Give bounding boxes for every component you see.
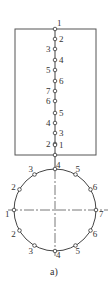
chain-label: 3 <box>59 129 64 138</box>
node-marker <box>53 68 57 72</box>
circle-label: 1 <box>5 210 10 219</box>
chain-label: 1 <box>59 141 64 150</box>
circle-label: 4 <box>56 251 61 260</box>
circle-label: 3 <box>29 165 34 174</box>
node-marker <box>12 208 16 212</box>
node-marker <box>53 58 57 62</box>
chain-label: 2 <box>46 140 51 149</box>
node-marker <box>18 229 22 233</box>
chain-label: 5 <box>59 109 64 118</box>
chain-label: 5 <box>46 66 51 75</box>
node-marker <box>53 153 57 157</box>
circle-label: 3 <box>29 247 34 256</box>
chain-label: 4 <box>46 119 51 128</box>
circle-label: 5 <box>76 165 81 174</box>
chain-label: 3 <box>46 45 51 54</box>
node-marker <box>94 208 98 212</box>
node-marker <box>53 47 57 51</box>
circle-label: 6 <box>93 183 98 192</box>
node-marker <box>53 89 57 93</box>
circle-label: 6 <box>93 230 98 239</box>
figure-caption: a) <box>50 266 58 277</box>
node-marker <box>53 131 57 135</box>
chain-label: 6 <box>59 77 64 86</box>
node-marker <box>53 37 57 41</box>
circle-label: 5 <box>76 247 81 256</box>
node-marker <box>53 99 57 103</box>
circle-label: 2 <box>11 230 16 239</box>
node-marker <box>33 173 37 177</box>
node-marker <box>53 143 57 147</box>
node-marker <box>53 111 57 115</box>
circle-label: 4 <box>56 161 61 170</box>
chain-label: 2 <box>59 35 64 44</box>
circle-label: 2 <box>11 183 16 192</box>
chain-label: 7 <box>46 87 51 96</box>
node-marker <box>33 244 37 248</box>
circle-label: 7 <box>99 210 104 219</box>
chain-label: 4 <box>59 56 64 65</box>
node-marker <box>18 188 22 192</box>
chain-label: 6 <box>46 97 51 106</box>
node-marker <box>53 79 57 83</box>
node-marker <box>53 121 57 125</box>
chain-label: 1 <box>57 19 62 28</box>
diagram-canvas <box>0 0 112 290</box>
